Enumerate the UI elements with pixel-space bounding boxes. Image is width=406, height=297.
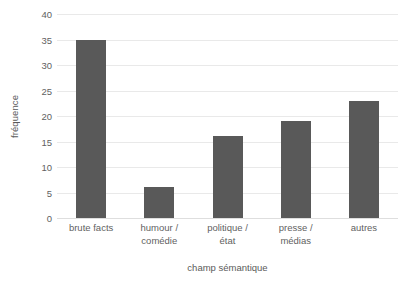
- bar-slot: [57, 14, 125, 218]
- x-axis-tick-labels: brute factshumour / comédiepolitique / é…: [57, 222, 398, 247]
- bar[interactable]: [76, 40, 106, 219]
- y-tick-label-25: 25: [41, 85, 52, 96]
- bar-slot: [330, 14, 398, 218]
- y-tick-label-5: 5: [47, 187, 52, 198]
- bar-slot: [125, 14, 193, 218]
- y-tick-label-30: 30: [41, 60, 52, 71]
- y-tick-label-0: 0: [47, 213, 52, 224]
- x-tick-label: politique / état: [193, 222, 261, 247]
- y-tick-label-15: 15: [41, 136, 52, 147]
- bar[interactable]: [281, 121, 311, 218]
- y-tick-label-20: 20: [41, 111, 52, 122]
- y-axis-title-label: fréquence: [10, 94, 21, 137]
- bar-slot: [193, 14, 261, 218]
- plot-area: [57, 14, 398, 218]
- y-axis-title: fréquence: [2, 0, 28, 232]
- x-tick-label: brute facts: [57, 222, 125, 247]
- bar[interactable]: [213, 136, 243, 218]
- bar-slot: [262, 14, 330, 218]
- y-axis-tick-labels: 0510152025303540: [26, 14, 52, 218]
- bar-chart: fréquence 0510152025303540 brute factshu…: [0, 0, 406, 297]
- x-tick-label: humour / comédie: [125, 222, 193, 247]
- x-tick-label: presse / médias: [262, 222, 330, 247]
- x-axis-title: champ sémantique: [57, 262, 398, 273]
- y-tick-label-35: 35: [41, 34, 52, 45]
- x-tick-label: autres: [330, 222, 398, 247]
- y-tick-label-40: 40: [41, 9, 52, 20]
- bar[interactable]: [144, 187, 174, 218]
- y-tick-label-10: 10: [41, 162, 52, 173]
- bar[interactable]: [349, 101, 379, 218]
- bars-layer: [57, 14, 398, 218]
- gridline-0: [57, 218, 398, 219]
